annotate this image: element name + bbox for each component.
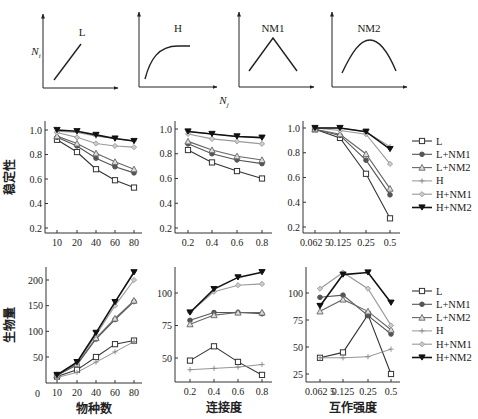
series-h-nm2 <box>54 270 137 378</box>
legend-top: LL+NM1L+NM2HH+NM1H+NM2 <box>412 136 472 214</box>
legend-item: H+NM1 <box>412 189 472 200</box>
y-axis-title: 生物量 <box>2 307 17 343</box>
panel-label-H: H <box>174 22 182 34</box>
panel-label-NM1: NM1 <box>261 22 284 34</box>
y-tick-label: 1.0 <box>30 125 43 136</box>
legend-label: H+NM1 <box>436 189 472 200</box>
legend-label: H+NM2 <box>436 202 472 213</box>
x-tick-label: 80 <box>129 237 139 248</box>
series-h-nm2 <box>317 270 394 309</box>
y-tick-label: 0.2 <box>160 223 173 234</box>
chart-panel-1: 0.20.40.60.81.01020406080稳定性 <box>2 121 142 248</box>
legend-bottom: LL+NM1L+NM2HH+NM1H+NM2 <box>412 286 472 364</box>
chart-panel-5: 50751000.20.40.60.8连接度 <box>157 267 272 415</box>
legend-item: L+NM2 <box>412 162 471 173</box>
x-axis-title: 物种数 <box>76 401 113 416</box>
legend-item: H+NM1 <box>412 339 472 350</box>
y-tick-label: 200 <box>28 275 43 286</box>
y-tick-label: 50 <box>33 352 43 363</box>
legend-label: L+NM2 <box>436 162 471 173</box>
curve-saturating <box>145 46 190 79</box>
chart-panel-3: 0.20.40.60.81.00.062 50.1250.250.5 <box>288 121 401 248</box>
x-tick-label: 0.25 <box>359 386 377 397</box>
series-h <box>317 347 393 361</box>
x-tick-label: 0.125 <box>329 237 352 248</box>
legend-label: L <box>436 286 442 297</box>
series-l <box>187 344 264 378</box>
y-tick-label: 25 <box>293 369 303 380</box>
x-tick-label: 10 <box>52 387 62 398</box>
schematic-NM2: NM2 <box>332 12 407 87</box>
series-h <box>187 362 264 372</box>
y-axis-label-Ni: Ni <box>30 45 40 60</box>
x-tick-label: 0.4 <box>206 237 219 248</box>
x-tick-label: 0.2 <box>182 237 195 248</box>
schematic-L: L Ni <box>30 14 118 88</box>
y-tick-label: 0.6 <box>160 173 173 184</box>
series-h-nm2 <box>187 270 265 316</box>
x-tick-label: 0.8 <box>256 386 269 397</box>
y-tick-label: 0.2 <box>30 223 43 234</box>
y-tick-label: 0.6 <box>30 174 43 185</box>
panel-label-NM2: NM2 <box>357 22 380 34</box>
series-l-nm2 <box>54 133 137 172</box>
legend-item: L <box>412 136 442 147</box>
x-tick-label: 60 <box>110 237 120 248</box>
y-tick-label: 50 <box>293 342 303 353</box>
y-tick-label: 100 <box>157 288 172 299</box>
chart-panel-2: 0.20.40.60.81.00.20.40.60.8 <box>160 121 273 248</box>
x-tick-label: 0.2 <box>184 386 197 397</box>
y-tick-label: 100 <box>288 288 303 299</box>
schematic-panels: L Ni H NM1 NM2 Nj <box>30 12 407 109</box>
legend-label: L+NM2 <box>436 312 471 323</box>
x-tick-label: 0.4 <box>208 386 221 397</box>
y-tick-label: 0.4 <box>160 198 173 209</box>
legend-item: H+NM2 <box>412 202 472 213</box>
x-tick-label: 0.5 <box>385 386 398 397</box>
curve-hump <box>342 40 396 73</box>
y-axis-title: 稳定性 <box>2 159 17 195</box>
x-axis-title: 互作强度 <box>329 400 378 415</box>
legend-item: L+NM1 <box>412 299 471 310</box>
series-l-nm2 <box>185 138 265 162</box>
series-l <box>317 312 393 377</box>
origin-label: 0 <box>35 388 40 399</box>
x-axis-label-Nj: Nj <box>218 94 228 109</box>
legend-label: H+NM1 <box>436 339 472 350</box>
legend-item: H <box>412 325 444 336</box>
x-tick-label: 0.6 <box>231 237 244 248</box>
x-tick-label: 10 <box>52 237 62 248</box>
panel-label-L: L <box>79 26 86 38</box>
series-l-nm1 <box>318 293 394 336</box>
x-tick-label: 40 <box>91 237 101 248</box>
y-tick-label: 0.4 <box>288 197 301 208</box>
series-l <box>54 338 136 379</box>
schematic-H: H <box>139 12 217 87</box>
legend-label: L+NM1 <box>436 149 471 160</box>
legends: LL+NM1L+NM2HH+NM1H+NM2LL+NM1L+NM2HH+NM1H… <box>412 136 472 364</box>
x-tick-label: 0.25 <box>357 237 375 248</box>
x-tick-label: 0.6 <box>232 386 245 397</box>
chart-panel-4: 5010015020001020406080物种数生物量 <box>2 267 142 416</box>
x-tick-label: 0.5 <box>384 237 397 248</box>
y-tick-label: 75 <box>293 315 303 326</box>
legend-label: H+NM2 <box>436 352 472 363</box>
y-tick-label: 1.0 <box>288 123 301 134</box>
legend-item: L+NM2 <box>412 312 471 323</box>
x-tick-label: 60 <box>110 387 120 398</box>
y-tick-label: 0.2 <box>288 222 301 233</box>
legend-item: H <box>412 175 444 186</box>
series-l-nm1 <box>313 127 393 197</box>
x-tick-label: 0.062 5 <box>305 386 335 397</box>
series-h-nm1 <box>317 270 393 328</box>
legend-label: H <box>436 325 444 336</box>
x-tick-label: 20 <box>72 387 82 398</box>
series-h-nm2 <box>185 129 265 140</box>
legend-item: H+NM2 <box>412 352 472 363</box>
x-axis-title: 连接度 <box>206 400 243 415</box>
y-tick-label: 1.0 <box>160 124 173 135</box>
schematic-NM1: NM1 <box>239 12 314 87</box>
curve-triangle <box>249 38 297 71</box>
y-tick-label: 150 <box>28 300 43 311</box>
legend-label: L <box>436 136 442 147</box>
